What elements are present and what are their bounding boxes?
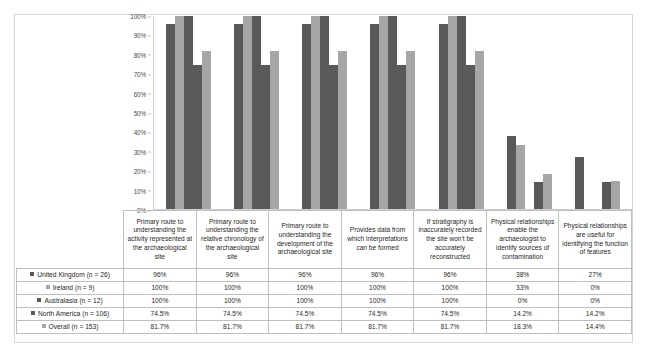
- bar: [320, 16, 329, 209]
- bar-group: [427, 16, 495, 209]
- bar: [184, 16, 193, 209]
- table-header-row: Primary route to understanding the activ…: [17, 211, 632, 269]
- bar: [193, 65, 202, 209]
- chart-object-frame: 100%90%80%70%60%50%40%30%20%10%0% Primar…: [14, 14, 633, 343]
- y-axis-tick-label: 80%: [134, 51, 146, 58]
- table-cell-value: 100%: [414, 282, 487, 295]
- table-column-header: Primary route to understanding the activ…: [124, 211, 197, 269]
- bar: [448, 16, 457, 209]
- bar: [543, 174, 552, 209]
- bar: [338, 51, 347, 209]
- table-cell-value: 74.5%: [124, 308, 197, 321]
- bar: [166, 24, 175, 209]
- y-axis-tick-label: 90%: [134, 32, 146, 39]
- table-row: North America (n = 106)74.5%74.5%74.5%74…: [17, 308, 632, 321]
- table-cell-value: 96%: [414, 269, 487, 282]
- table-cell-value: 0%: [486, 295, 559, 308]
- table-cell-value: 100%: [269, 295, 342, 308]
- bar: [534, 182, 543, 209]
- bar: [270, 51, 279, 209]
- y-axis-tick-label: 10%: [134, 187, 146, 194]
- legend-swatch-icon: [46, 285, 50, 289]
- bar: [175, 16, 184, 209]
- bar: [439, 24, 448, 209]
- bar: [370, 24, 379, 209]
- legend-entry: Australasia (n = 12): [17, 295, 124, 308]
- table-row: United Kingdom (n = 26)96%96%96%96%96%38…: [17, 269, 632, 282]
- table-cell-value: 100%: [196, 295, 269, 308]
- bar: [243, 16, 252, 209]
- bar: [379, 16, 388, 209]
- bar: [302, 24, 311, 209]
- table-cell-value: 0%: [559, 282, 632, 295]
- legend-label: Ireland (n = 9): [53, 284, 95, 291]
- bar: [602, 182, 611, 209]
- bar-group: [359, 16, 427, 209]
- bar: [388, 16, 397, 209]
- bar: [457, 16, 466, 209]
- table-cell-value: 100%: [414, 295, 487, 308]
- table-cell-value: 96%: [341, 269, 414, 282]
- table-cell-value: 74.5%: [414, 308, 487, 321]
- y-axis-tick-label: 60%: [134, 90, 146, 97]
- table-cell-value: 81.7%: [124, 321, 197, 334]
- table-row: Australasia (n = 12)100%100%100%100%100%…: [17, 295, 632, 308]
- bar: [507, 136, 516, 209]
- bar-group: [495, 16, 563, 209]
- bar: [261, 65, 270, 209]
- legend-entry: Overall (n = 153): [17, 321, 124, 334]
- legend-label: Australasia (n = 12): [44, 297, 102, 304]
- bar: [475, 51, 484, 209]
- y-axis-tick-label: 100%: [130, 13, 146, 20]
- table-column-header: Physical relationships are useful for id…: [559, 211, 632, 269]
- bar: [575, 157, 584, 209]
- bar-group: [564, 16, 632, 209]
- table-cell-value: 81.7%: [196, 321, 269, 334]
- table-cell-value: 81.7%: [269, 321, 342, 334]
- legend-entry: United Kingdom (n = 26): [17, 269, 124, 282]
- bar: [329, 65, 338, 209]
- table-cell-value: 74.5%: [196, 308, 269, 321]
- bar-groups: [154, 16, 632, 209]
- table-column-header: Primary route to understanding the devel…: [269, 211, 342, 269]
- table-cell-value: 14.2%: [559, 308, 632, 321]
- bar: [234, 24, 243, 209]
- bar: [406, 51, 415, 209]
- table-cell-value: 74.5%: [269, 308, 342, 321]
- table-cell-value: 14.2%: [486, 308, 559, 321]
- bar-group: [154, 16, 222, 209]
- legend-label: North America (n = 106): [38, 310, 109, 317]
- table-cell-value: 74.5%: [341, 308, 414, 321]
- bar-group: [222, 16, 290, 209]
- bar: [611, 181, 620, 209]
- table-column-header: If stratigraphy is inaccurately recorded…: [414, 211, 487, 269]
- y-axis-tick-label: 20%: [134, 168, 146, 175]
- legend-label: United Kingdom (n = 26): [37, 271, 110, 278]
- table-row: Ireland (n = 9)100%100%100%100%100%33%0%: [17, 282, 632, 295]
- table-corner-cell: [17, 211, 124, 269]
- data-table: Primary route to understanding the activ…: [16, 210, 632, 334]
- y-axis-tick-label: 70%: [134, 71, 146, 78]
- legend-swatch-icon: [30, 272, 34, 276]
- table-cell-value: 33%: [486, 282, 559, 295]
- table-cell-value: 96%: [196, 269, 269, 282]
- legend-swatch-icon: [42, 324, 46, 328]
- plot-area: 100%90%80%70%60%50%40%30%20%10%0%: [123, 16, 632, 210]
- y-axis-tick-label: 50%: [134, 110, 146, 117]
- legend-entry: North America (n = 106): [17, 308, 124, 321]
- table-cell-value: 96%: [269, 269, 342, 282]
- table-column-header: Provides data from which interpretations…: [341, 211, 414, 269]
- table-cell-value: 0%: [559, 295, 632, 308]
- table-cell-value: 81.7%: [414, 321, 487, 334]
- legend-entry: Ireland (n = 9): [17, 282, 124, 295]
- legend-swatch-icon: [37, 298, 41, 302]
- table-body: United Kingdom (n = 26)96%96%96%96%96%38…: [17, 269, 632, 334]
- bar: [202, 51, 211, 209]
- legend-label: Overall (n = 153): [49, 323, 99, 330]
- table-column-header: Primary route to understanding the relat…: [196, 211, 269, 269]
- table-cell-value: 100%: [341, 295, 414, 308]
- bar: [252, 16, 261, 209]
- bar: [311, 16, 320, 209]
- table-cell-value: 100%: [124, 295, 197, 308]
- table-cell-value: 100%: [124, 282, 197, 295]
